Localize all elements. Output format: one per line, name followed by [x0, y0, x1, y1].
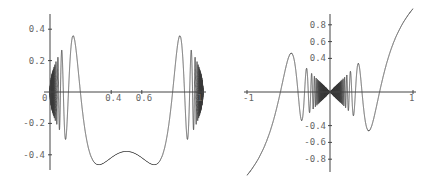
x-tick-label: 1: [197, 93, 202, 103]
x-tick-label: -1: [243, 93, 254, 103]
y-tick-label: 0.8: [310, 20, 326, 30]
y-tick-label: 0.4: [310, 53, 326, 63]
y-tick-label: -0.6: [304, 137, 326, 147]
y-tick-label: 0.4: [29, 24, 45, 34]
y-tick-label: -0.4: [304, 121, 326, 131]
x-tick-label: 1: [409, 93, 414, 103]
right-plot: -110.80.60.4-0.4-0.6-0.8: [243, 9, 416, 176]
left-plot: 00.40.610.40.2-0.2-0.4: [23, 14, 206, 170]
y-tick-label: 0.2: [29, 56, 45, 66]
figure: 00.40.610.40.2-0.2-0.4 -110.80.60.4-0.4-…: [0, 0, 434, 180]
left-curve: [50, 36, 203, 165]
y-tick-label: -0.2: [23, 118, 45, 128]
x-tick-label: 0: [42, 93, 47, 103]
y-tick-label: 0.6: [310, 37, 326, 47]
x-tick-label: 0.6: [136, 93, 152, 103]
y-tick-label: -0.4: [23, 150, 45, 160]
x-tick-label: 0.4: [105, 93, 121, 103]
y-tick-label: -0.8: [304, 154, 326, 164]
